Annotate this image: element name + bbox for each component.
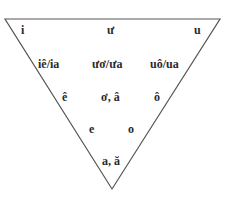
vowel-uw: ư: [107, 23, 115, 37]
vowel-e: e: [89, 122, 95, 136]
vowel-triangle-diagram: i ư u iê/ia ươ/ưa uô/ua ê ơ, â ô e o a, …: [0, 0, 230, 207]
vowel-i: i: [21, 23, 25, 37]
vowel-o-circ: ô: [154, 90, 160, 104]
vowel-o-horn: ơ, â: [101, 90, 120, 104]
vowel-a: a, ă: [102, 154, 120, 168]
vowel-uo: uô/ua: [150, 57, 179, 71]
vowel-ie: iê/ia: [38, 57, 59, 71]
vowel-e-circ: ê: [62, 90, 68, 104]
vowel-o: o: [128, 122, 134, 136]
vowel-uwo: ươ/ưa: [92, 57, 122, 71]
vowel-u: u: [194, 23, 201, 37]
